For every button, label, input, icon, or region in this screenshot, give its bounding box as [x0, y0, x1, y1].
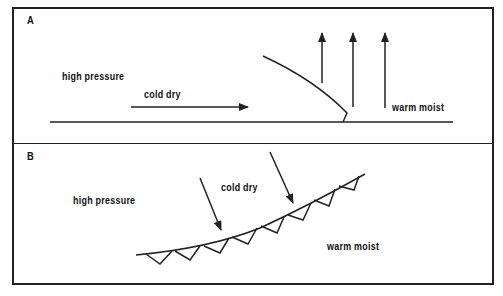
panel-a-warm-moist-label: warm moist — [392, 101, 444, 113]
panel-b-cold-dry-label: cold dry — [221, 181, 258, 193]
diagram-artwork — [0, 0, 503, 296]
panel-b-high-pressure-label: high pressure — [73, 194, 135, 206]
panel-a-high-pressure-label: high pressure — [62, 70, 124, 82]
front-boundary-curve — [263, 56, 347, 122]
panel-b-letter: B — [27, 150, 34, 162]
cold-dry-arrow-right — [270, 152, 293, 203]
cold-dry-arrow-left — [200, 178, 221, 230]
panel-a-cold-dry-label: cold dry — [144, 88, 181, 100]
panel-a-letter: A — [27, 14, 34, 26]
panel-b-warm-moist-label: warm moist — [327, 240, 379, 252]
